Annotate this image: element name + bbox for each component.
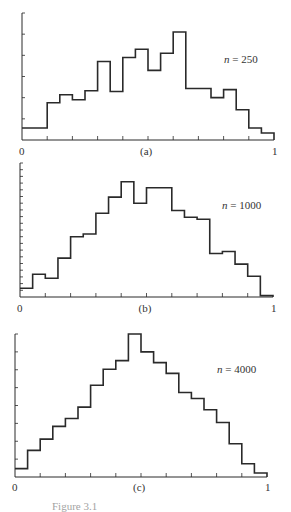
- sample-size-annotation-c: n = 4000: [217, 364, 256, 375]
- panel-label-c: (c): [133, 482, 145, 493]
- x-tick-label-1: 1: [265, 482, 271, 493]
- histogram-step-line: [15, 334, 267, 477]
- figure-caption: Figure 3.1: [52, 500, 97, 512]
- x-tick-label-0: 0: [12, 482, 18, 493]
- histogram-figure: 0 (a) 1 n = 250 0 (b) 1 n = 1000 0 (c) 1…: [0, 0, 291, 512]
- histogram-plot-c: [0, 0, 291, 512]
